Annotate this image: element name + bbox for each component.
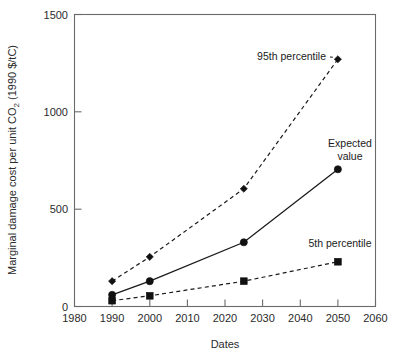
x-tick-label-1980: 1980 [62, 312, 86, 324]
y-tick-label-0: 0 [62, 301, 68, 313]
data-point [146, 292, 153, 299]
y-tick-label-1000: 1000 [44, 106, 68, 118]
y-axis-title-before: Marginal damage cost per unit CO [6, 107, 18, 275]
y-axis-title-after: (1990 $/tC) [6, 45, 18, 103]
chart-figure: Marginal damage cost per unit CO2 (1990 … [0, 0, 398, 355]
x-tick-label-2030: 2030 [250, 312, 274, 324]
x-tick-label-2050: 2050 [326, 312, 350, 324]
data-point [334, 258, 341, 265]
data-point [240, 278, 247, 285]
x-tick-label-2040: 2040 [288, 312, 312, 324]
x-tick-label-1990: 1990 [100, 312, 124, 324]
annotation-expected-value-line2: value [337, 150, 362, 162]
annotation-5th-percentile: 5th percentile [308, 237, 371, 249]
annotation-95th-percentile: 95th percentile [257, 50, 326, 62]
x-tick-label-2000: 2000 [138, 312, 162, 324]
y-tick-label-1500: 1500 [44, 9, 68, 21]
x-tick-label-2020: 2020 [213, 312, 237, 324]
data-point [334, 166, 341, 173]
annotation-expected-value-line1: Expected [328, 137, 372, 149]
data-point [109, 297, 116, 304]
x-tick-label-2060: 2060 [363, 312, 387, 324]
data-point [146, 278, 153, 285]
marginal-damage-cost-line-chart: Marginal damage cost per unit CO2 (1990 … [0, 0, 398, 355]
y-tick-label-500: 500 [50, 203, 68, 215]
x-axis-title: Dates [211, 338, 240, 350]
data-point [240, 239, 247, 246]
x-tick-label-2010: 2010 [175, 312, 199, 324]
